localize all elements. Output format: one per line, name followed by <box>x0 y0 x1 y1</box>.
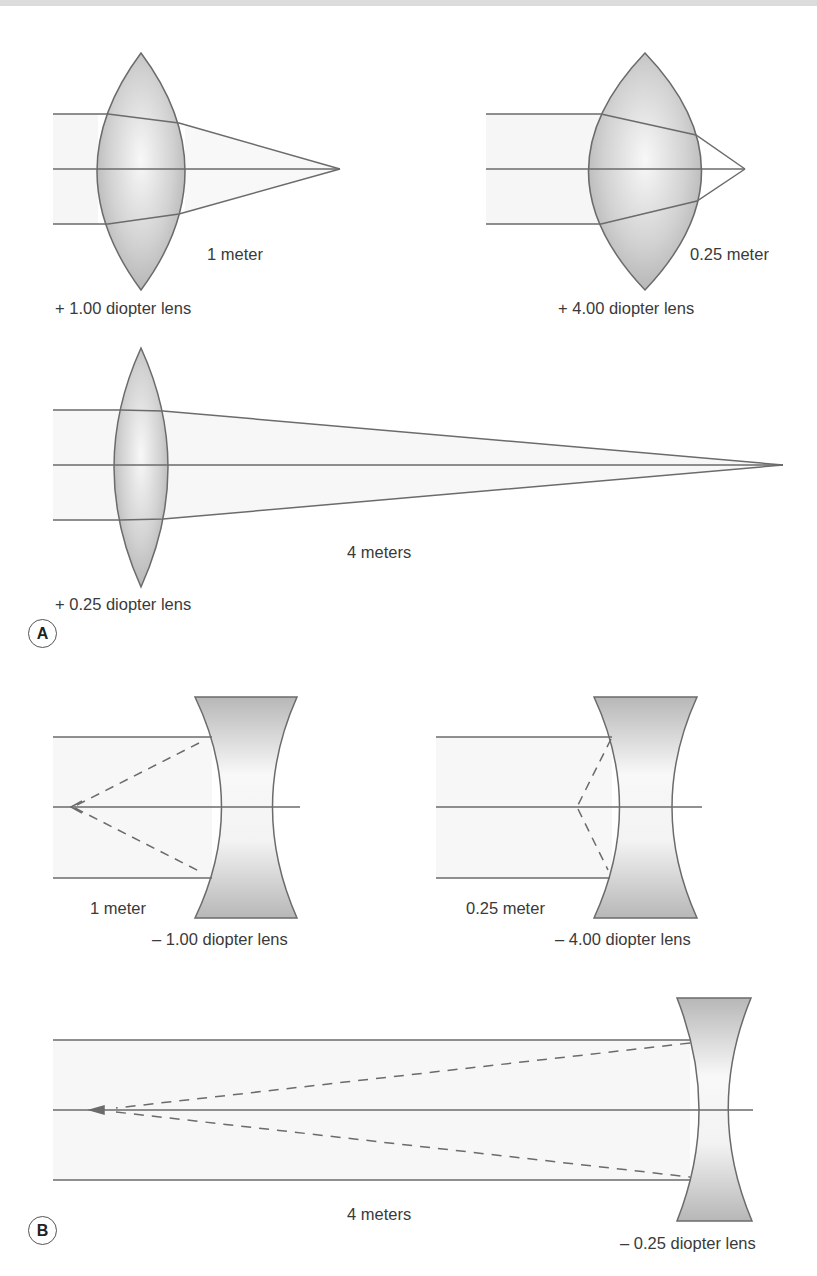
lens-diagram <box>0 0 817 1276</box>
concave-lens-minus-4 <box>436 697 702 918</box>
concave-lens-minus-1 <box>53 697 300 918</box>
distance-label-lens-4: 1 meter <box>90 898 146 918</box>
power-label-lens-3: + 0.25 diopter lens <box>55 594 191 614</box>
panel-badge-b: B <box>28 1216 57 1245</box>
convex-lens-plus-0-25 <box>53 348 783 587</box>
power-label-lens-5: – 4.00 diopter lens <box>555 929 691 949</box>
distance-label-lens-6: 4 meters <box>347 1204 411 1224</box>
convex-lens-plus-1 <box>53 53 340 290</box>
power-label-lens-2: + 4.00 diopter lens <box>558 298 694 318</box>
panel-badge-a: A <box>28 619 57 648</box>
power-label-lens-1: + 1.00 diopter lens <box>55 298 191 318</box>
distance-label-lens-2: 0.25 meter <box>690 244 769 264</box>
power-label-lens-4: – 1.00 diopter lens <box>152 929 288 949</box>
concave-lens-minus-0-25 <box>53 998 753 1221</box>
distance-label-lens-5: 0.25 meter <box>466 898 545 918</box>
distance-label-lens-1: 1 meter <box>207 244 263 264</box>
distance-label-lens-3: 4 meters <box>347 542 411 562</box>
power-label-lens-6: – 0.25 diopter lens <box>620 1233 756 1253</box>
